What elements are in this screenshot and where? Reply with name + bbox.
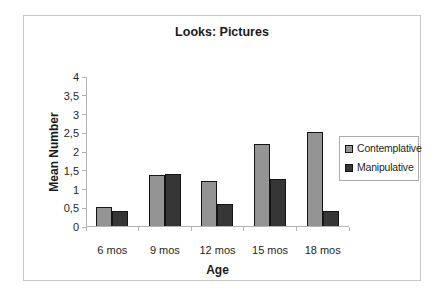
x-tick-label: 6 mos <box>86 244 139 259</box>
legend-swatch-manipulative <box>345 164 353 172</box>
bar-manipulative-15-mos <box>270 179 286 226</box>
bar-manipulative-18-mos <box>323 211 339 226</box>
bar-contemplative-18-mos <box>307 132 323 226</box>
y-tick-label: 4 <box>49 71 79 83</box>
bar-contemplative-12-mos <box>201 181 217 226</box>
x-tick-mark <box>296 227 297 231</box>
y-tick-label: 1 <box>49 184 79 196</box>
y-tick-label: 0,5 <box>49 202 79 214</box>
y-tick-label: 3 <box>49 109 79 121</box>
bars-region <box>86 77 349 226</box>
y-tick-label: 3,5 <box>49 90 79 102</box>
chart-title: Looks: Pictures <box>24 25 420 39</box>
x-axis-line <box>86 226 349 227</box>
legend: ContemplativeManipulative <box>339 136 419 181</box>
x-tick-label: 15 mos <box>244 244 297 259</box>
y-tick-label: 2 <box>49 146 79 158</box>
x-tick-label: 9 mos <box>139 244 192 259</box>
y-tick-label: 1,5 <box>49 165 79 177</box>
legend-item-manipulative: Manipulative <box>345 162 414 173</box>
bar-manipulative-12-mos <box>217 204 233 227</box>
x-axis-labels: 6 mos9 mos12 mos15 mos18 mos <box>86 244 349 259</box>
category-group-6-mos <box>86 77 139 226</box>
bar-contemplative-15-mos <box>254 144 270 227</box>
legend-label-manipulative: Manipulative <box>357 162 414 173</box>
y-tick-label: 2,5 <box>49 127 79 139</box>
x-tick-mark <box>138 227 139 231</box>
category-group-9-mos <box>139 77 192 226</box>
category-group-12-mos <box>191 77 244 226</box>
bar-contemplative-9-mos <box>149 175 165 226</box>
figure-canvas: Looks: Pictures Mean Number 00,511,522,5… <box>0 0 442 304</box>
y-tick-label: 0 <box>49 221 79 233</box>
x-tick-mark <box>191 227 192 231</box>
x-axis-title: Age <box>86 263 349 277</box>
legend-label-contemplative: Contemplative <box>357 143 422 154</box>
bar-manipulative-9-mos <box>165 174 181 227</box>
bar-contemplative-6-mos <box>96 207 112 226</box>
x-tick-label: 12 mos <box>191 244 244 259</box>
legend-item-contemplative: Contemplative <box>345 143 414 154</box>
x-tick-label: 18 mos <box>296 244 349 259</box>
chart-frame: Looks: Pictures Mean Number 00,511,522,5… <box>23 15 421 281</box>
x-tick-mark <box>86 227 87 231</box>
x-tick-mark <box>243 227 244 231</box>
bar-manipulative-6-mos <box>112 211 128 226</box>
category-group-15-mos <box>244 77 297 226</box>
x-tick-mark <box>349 227 350 231</box>
plot-area: 00,511,522,533,54 <box>86 77 349 227</box>
legend-swatch-contemplative <box>345 145 353 153</box>
